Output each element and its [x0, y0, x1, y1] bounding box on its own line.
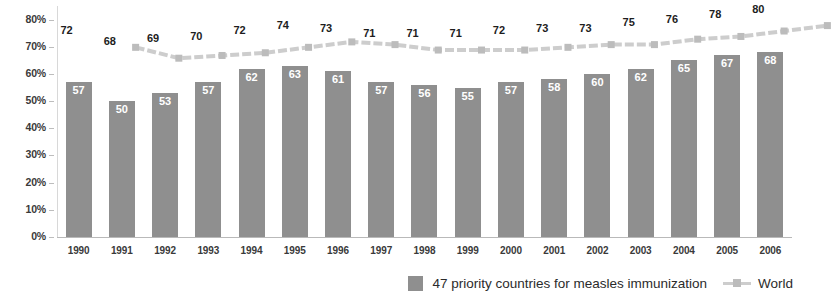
y-axis-tick-label: 50% [26, 94, 46, 106]
world-line-value-label: 70 [190, 31, 202, 42]
y-axis-tick-label: 60% [26, 67, 46, 79]
world-line-marker [219, 52, 226, 59]
bar: 57 [66, 82, 92, 237]
world-line-value-label: 72 [60, 25, 72, 36]
world-line-marker [435, 47, 442, 54]
world-line-marker [392, 41, 399, 48]
legend-entry[interactable]: World [723, 276, 793, 291]
chart-legend: 47 priority countries for measles immuni… [0, 272, 801, 294]
y-axis-tick-mark [49, 74, 54, 75]
legend-label: World [758, 276, 793, 291]
world-line-value-label: 76 [666, 14, 678, 25]
world-line-value-label: 80 [752, 4, 764, 15]
world-line-marker [651, 41, 658, 48]
y-axis-tick-label: 10% [26, 203, 46, 215]
world-line-value-label: 69 [147, 33, 159, 44]
world-line-marker [132, 44, 139, 51]
world-line-marker [305, 44, 312, 51]
world-line-value-label: 72 [493, 25, 505, 36]
world-line-value-label: 73 [579, 23, 591, 34]
world-line-value-label: 75 [623, 17, 635, 28]
world-line-marker [262, 49, 269, 56]
world-line-value-label: 74 [277, 20, 289, 31]
y-axis-tick-mark [49, 155, 54, 156]
legend-line-marker-icon [723, 277, 751, 289]
y-axis-tick-label: 30% [26, 148, 46, 160]
y-axis-tick-label: 40% [26, 121, 46, 133]
y-axis-tick-label: 0% [31, 230, 46, 242]
y-axis-tick-label: 70% [26, 40, 46, 52]
y-axis-tick-mark [49, 128, 54, 129]
world-line-marker [478, 47, 485, 54]
y-axis-tick-mark [49, 237, 54, 238]
bar-slot: 57 [57, 6, 100, 237]
y-axis-tick-label: 80% [26, 13, 46, 25]
world-line-marker [175, 55, 182, 62]
world-line-value-label: 71 [450, 28, 462, 39]
world-line-value-label: 68 [104, 36, 116, 47]
world-line-value-label: 73 [320, 23, 332, 34]
world-line-marker [521, 47, 528, 54]
x-axis-tick-label: 2006 [740, 245, 800, 256]
y-axis-tick-mark [49, 47, 54, 48]
world-line-value-label: 71 [406, 28, 418, 39]
world-line-series [114, 12, 835, 243]
legend-swatch-icon [408, 276, 423, 291]
world-line-value-label: 71 [363, 28, 375, 39]
world-line-marker [781, 28, 788, 35]
world-line-marker [737, 33, 744, 40]
legend-label: 47 priority countries for measles immuni… [432, 276, 707, 291]
world-line-marker [564, 44, 571, 51]
y-axis-tick-mark [49, 101, 54, 102]
world-line-value-label: 73 [536, 23, 548, 34]
world-line-marker [694, 36, 701, 43]
y-axis-tick-label: 20% [26, 176, 46, 188]
world-line-marker [348, 38, 355, 45]
world-line-marker [608, 41, 615, 48]
world-line-value-label: 78 [709, 9, 721, 20]
legend-entry[interactable]: 47 priority countries for measles immuni… [408, 276, 707, 291]
y-axis-tick-mark [49, 210, 54, 211]
bar-value-label: 57 [66, 85, 92, 96]
y-axis-tick-mark [49, 183, 54, 184]
plot-area: 5750535762636157565557586062656768 72686… [57, 6, 792, 237]
world-line-marker [824, 22, 831, 29]
y-axis-tick-mark [49, 20, 54, 21]
world-line-value-label: 72 [233, 25, 245, 36]
